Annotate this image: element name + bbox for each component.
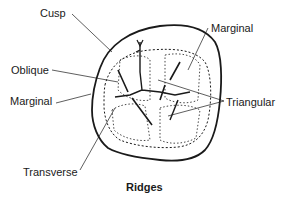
marginal-ridge-outline xyxy=(104,49,211,147)
tooth-outline xyxy=(92,25,221,161)
cusp-outline-3 xyxy=(112,104,150,141)
label-marginal-left: Marginal xyxy=(10,95,52,107)
leader-triangular-1 xyxy=(158,80,224,101)
label-cusp: Cusp xyxy=(40,7,66,19)
triangular-ridge-2 xyxy=(170,100,178,120)
leader-marginal-top xyxy=(188,28,208,70)
label-transverse: Transverse xyxy=(23,166,78,178)
figure-caption: Ridges xyxy=(126,181,163,193)
groove-branch xyxy=(136,40,143,52)
label-oblique: Oblique xyxy=(11,64,49,76)
leader-cusp xyxy=(72,14,112,52)
leader-marginal-left xyxy=(56,94,91,103)
label-marginal-top: Marginal xyxy=(211,22,253,34)
leader-transverse xyxy=(80,108,115,170)
cusp-outline-4 xyxy=(160,105,200,143)
label-triangular: Triangular xyxy=(226,96,275,108)
oblique-ridge xyxy=(118,70,152,125)
